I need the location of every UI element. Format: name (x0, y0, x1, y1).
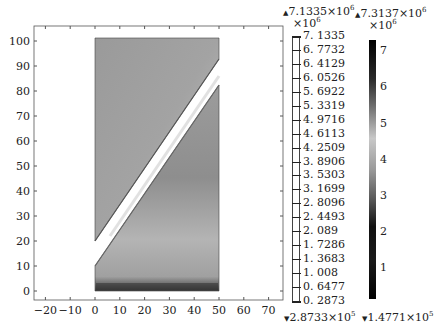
x-tick-label: −10 (59, 304, 82, 317)
colorbar-2-tick: 6 (380, 80, 387, 93)
colorbar-2-tick: 4 (380, 153, 387, 166)
y-tick-label: 0 (23, 285, 30, 298)
colorbar-1-level: 6. 4129 (303, 57, 345, 70)
x-tick-label: 60 (237, 304, 251, 317)
colorbar-1-level: 0. 2873 (303, 294, 345, 307)
colorbar-2-tick: 5 (380, 117, 387, 130)
y-tick-label: 30 (16, 210, 30, 223)
y-tick-label: 10 (16, 260, 30, 273)
y-tick-label: 70 (16, 110, 30, 123)
colorbar-1-level: 2. 4493 (303, 210, 345, 223)
x-tick-label: 30 (162, 304, 176, 317)
x-tick-label: −20 (34, 304, 57, 317)
colorbar-1-level: 1. 3683 (303, 252, 345, 265)
colorbar-1-level: 5. 6922 (303, 85, 345, 98)
colorbar-1-level: 7. 1335 (303, 29, 345, 42)
colorbar-2-scale: ×106 (369, 18, 427, 32)
colorbar-1-level: 2. 089 (303, 224, 338, 237)
y-tick-label: 90 (16, 60, 30, 73)
y-tick-label: 80 (16, 85, 30, 98)
colorbar-1-level: 4. 2509 (303, 141, 345, 154)
colorbar-2-tick: 1 (380, 261, 387, 274)
y-tick-label: 40 (16, 185, 30, 198)
colorbar-2-bar (369, 40, 376, 299)
x-tick-label: 70 (262, 304, 276, 317)
colorbar-1-min: ▼2.8733×105 (284, 310, 356, 324)
y-tick-label: 100 (9, 35, 30, 48)
colorbar-1-level: 3. 5303 (303, 168, 345, 181)
colorbar-1-level: 3. 1699 (303, 182, 345, 195)
colorbar-1-level: 2. 8096 (303, 196, 345, 209)
colorbar-2-tick: 2 (380, 225, 387, 238)
colorbar-1: ▲7.1335×106 ×106 (283, 4, 363, 29)
colorbar-1-level: 0. 6477 (303, 280, 345, 293)
colorbar-2-min: ▼1.4771×105 (362, 310, 434, 324)
colorbar-1-level: 6. 7732 (303, 43, 345, 56)
colorbar-2-ticks: 7654321 (380, 40, 400, 299)
y-tick-label: 60 (16, 135, 30, 148)
colorbar-2-tick: 7 (380, 44, 387, 57)
colorbar-1-level: 4. 6113 (303, 127, 345, 140)
colorbar-1-scale: ×106 (293, 16, 363, 30)
colorbar-2: ▲7.3137×106 ×106 (355, 6, 427, 31)
x-tick-label: 10 (113, 304, 127, 317)
colorbar-1-level: 3. 8906 (303, 155, 345, 168)
x-tick-label: 50 (212, 304, 226, 317)
y-tick-label: 50 (16, 160, 30, 173)
colorbar-1-level: 1. 7286 (303, 238, 345, 251)
x-tick-label: 20 (138, 304, 152, 317)
x-tick-label: 0 (92, 304, 99, 317)
colorbar-1-level: 4. 9716 (303, 113, 345, 126)
colorbar-1-level: 6. 0526 (303, 71, 345, 84)
colorbar-2-tick: 3 (380, 189, 387, 202)
colorbar-1-level: 1. 008 (303, 266, 338, 279)
colorbar-1-level: 5. 3319 (303, 99, 345, 112)
y-tick-label: 20 (16, 235, 30, 248)
x-tick-label: 40 (187, 304, 201, 317)
